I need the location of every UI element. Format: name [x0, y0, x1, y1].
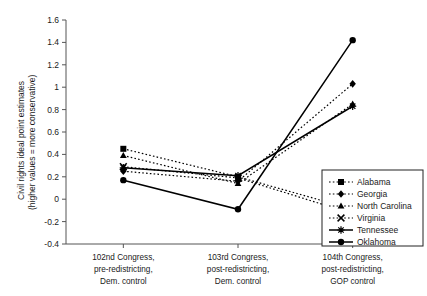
y-tick-label: 0.8 [47, 105, 59, 115]
legend-label: Virginia [357, 213, 385, 223]
y-tick-label: 0.4 [47, 149, 59, 159]
y-axis-title-line1: Civil rights ideal point estimates [16, 81, 26, 200]
y-tick-label: -0.4 [44, 239, 59, 249]
data-point-marker-star [120, 164, 127, 172]
chart-background [0, 0, 427, 296]
x-category-label: Dem. control [100, 277, 147, 286]
data-point-marker-square [338, 179, 344, 185]
y-tick-label: 0.2 [47, 172, 59, 182]
legend-label: Georgia [357, 189, 388, 199]
chart-figure: Civil rights ideal point estimates (high… [0, 0, 427, 296]
x-category-label: 102nd Congress, [92, 253, 154, 262]
y-tick-label: 1.4 [47, 37, 59, 47]
data-point-marker-star [349, 102, 356, 110]
y-tick-label: 1.2 [47, 60, 59, 70]
legend-label: North Carolina [357, 201, 412, 211]
x-category-label: post-redistricting, [321, 265, 383, 274]
x-category-label: post-redistricting, [207, 265, 269, 274]
data-point-marker-circle [235, 206, 241, 212]
x-category-label: 103rd Congress, [208, 253, 269, 262]
legend-label: Oklahoma [357, 237, 396, 247]
y-axis-title-line2: (higher values = more conservative) [27, 74, 37, 210]
line-chart-canvas: Civil rights ideal point estimates (high… [0, 0, 427, 296]
data-point-marker-circle [120, 177, 126, 183]
x-category-label: 104th Congress, [323, 253, 383, 262]
data-point-marker-star [234, 172, 241, 180]
x-category-label: pre-redistricting, [94, 265, 153, 274]
data-point-marker-circle [338, 239, 344, 245]
y-tick-label: -0.2 [44, 217, 59, 227]
data-point-marker-star [337, 226, 344, 234]
y-tick-label: 0.6 [47, 127, 59, 137]
y-tick-label: 1.6 [47, 15, 59, 25]
data-point-marker-circle [349, 37, 355, 43]
data-point-marker-square [120, 146, 126, 152]
x-axis-category-labels: 102nd Congress,pre-redistricting,Dem. co… [92, 253, 384, 286]
legend-label: Tennessee [357, 225, 398, 235]
y-tick-label: 1 [54, 82, 59, 92]
legend-label: Alabama [357, 177, 391, 187]
x-category-label: Dem. control [215, 277, 262, 286]
x-category-label: GOP control [330, 277, 375, 286]
y-tick-label: 0 [54, 194, 59, 204]
